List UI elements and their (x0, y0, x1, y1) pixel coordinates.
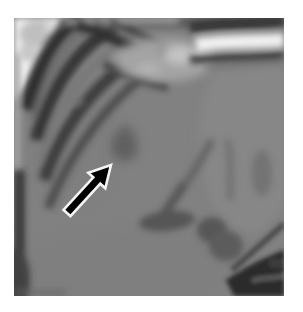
page-background (0, 0, 303, 312)
film-grain-texture (14, 18, 284, 296)
mri-scan-image (14, 18, 284, 296)
mri-scan-figure (14, 18, 284, 296)
